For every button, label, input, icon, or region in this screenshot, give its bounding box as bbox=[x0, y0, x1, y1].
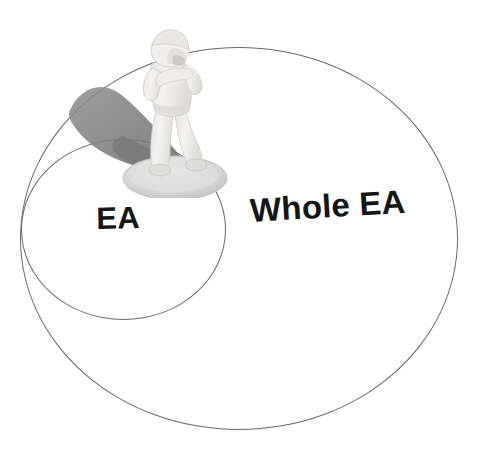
ea-label: EA bbox=[96, 200, 140, 237]
figurine-photo bbox=[60, 18, 245, 198]
diagram-canvas: EA Whole EA bbox=[0, 0, 489, 457]
